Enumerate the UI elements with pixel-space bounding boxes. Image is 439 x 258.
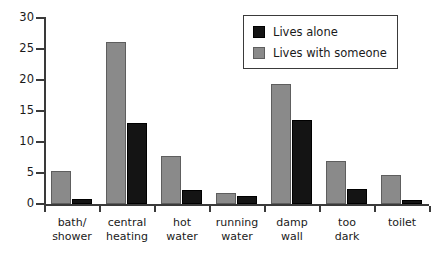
bar-lives-with-someone bbox=[326, 161, 346, 204]
x-axis-category-label-line: dark bbox=[310, 230, 384, 244]
y-axis-tick-label: 25 bbox=[4, 43, 34, 54]
y-axis-tick-label: 30 bbox=[4, 12, 34, 23]
y-axis-tick bbox=[36, 172, 44, 174]
bar-lives-with-someone bbox=[271, 84, 291, 204]
clipped-caption-text bbox=[8, 0, 11, 4]
bar-lives-with-someone bbox=[51, 171, 71, 204]
bar-lives-with-someone bbox=[161, 156, 181, 204]
bar-lives-alone bbox=[182, 190, 202, 204]
x-axis-category-label-line: toilet bbox=[365, 216, 439, 230]
clipped-caption-remnant bbox=[0, 0, 439, 5]
y-axis-tick-label-wrap: 10 bbox=[0, 136, 34, 148]
bar-lives-with-someone bbox=[381, 175, 401, 204]
x-axis-tick bbox=[264, 206, 266, 212]
bar-lives-alone bbox=[237, 196, 257, 204]
y-axis-tick-label-wrap: 25 bbox=[0, 43, 34, 55]
y-axis-tick-label: 20 bbox=[4, 74, 34, 85]
x-axis-tick bbox=[44, 206, 46, 212]
y-axis-tick-label-wrap: 30 bbox=[0, 12, 34, 24]
legend-label-lives-alone: Lives alone bbox=[273, 26, 338, 38]
x-axis-tick bbox=[319, 206, 321, 212]
y-axis-tick-label-wrap: 15 bbox=[0, 105, 34, 117]
bar-chart: 051015202530 bath/showercentralheatingho… bbox=[0, 0, 439, 258]
y-axis-tick bbox=[36, 141, 44, 143]
x-axis-tick bbox=[374, 206, 376, 212]
y-axis-tick bbox=[36, 48, 44, 50]
y-axis-tick-label: 15 bbox=[4, 105, 34, 116]
y-axis-tick bbox=[36, 79, 44, 81]
chart-legend: Lives alone Lives with someone bbox=[243, 15, 398, 69]
bar-lives-alone bbox=[72, 199, 92, 204]
bar-lives-alone bbox=[347, 189, 367, 205]
legend-item-lives-alone: Lives alone bbox=[253, 23, 387, 40]
y-axis-tick-label: 5 bbox=[4, 167, 34, 178]
y-axis-tick bbox=[36, 110, 44, 112]
y-axis-tick-label: 10 bbox=[4, 136, 34, 147]
y-axis-line bbox=[44, 17, 46, 206]
x-axis-category-label: toilet bbox=[365, 216, 439, 230]
y-axis-tick-label-wrap: 0 bbox=[0, 198, 34, 210]
legend-swatch-black-icon bbox=[253, 26, 265, 38]
y-axis-tick-label-wrap: 5 bbox=[0, 167, 34, 179]
x-axis-line bbox=[44, 204, 429, 206]
x-axis-tick bbox=[99, 206, 101, 212]
bar-lives-alone bbox=[127, 123, 147, 204]
x-axis-tick bbox=[429, 206, 431, 212]
bar-lives-with-someone bbox=[216, 193, 236, 204]
y-axis-tick-label-wrap: 20 bbox=[0, 74, 34, 86]
legend-label-lives-with-someone: Lives with someone bbox=[273, 47, 387, 59]
x-axis-tick bbox=[154, 206, 156, 212]
x-axis-tick bbox=[209, 206, 211, 212]
y-axis-tick-label: 0 bbox=[4, 198, 34, 209]
y-axis-tick bbox=[36, 203, 44, 205]
legend-swatch-gray-icon bbox=[253, 47, 265, 59]
bar-lives-with-someone bbox=[106, 42, 126, 204]
y-axis-tick bbox=[36, 17, 44, 19]
legend-item-lives-with-someone: Lives with someone bbox=[253, 44, 387, 61]
bar-lives-alone bbox=[402, 200, 422, 204]
bar-lives-alone bbox=[292, 120, 312, 204]
